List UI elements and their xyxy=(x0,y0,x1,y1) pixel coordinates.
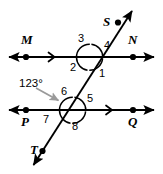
angle-label-6: 6 xyxy=(61,86,67,97)
point-m-dot xyxy=(23,54,29,60)
point-s-dot xyxy=(115,19,121,25)
point-label-n: N xyxy=(128,33,137,46)
point-n-dot xyxy=(130,54,136,60)
arc-angle-4 xyxy=(91,44,102,57)
angle-label-7: 7 xyxy=(43,114,49,125)
angle-label-8: 8 xyxy=(72,121,78,132)
geometry-figure: M N P Q S T 3 4 2 1 6 5 7 8 123° xyxy=(0,0,163,174)
angle-label-4: 4 xyxy=(104,40,110,51)
angle-label-1: 1 xyxy=(99,68,105,79)
angle-label-3: 3 xyxy=(78,33,84,44)
point-label-m: M xyxy=(21,33,33,46)
point-q-dot xyxy=(130,107,136,113)
arc-angle-2 xyxy=(77,58,88,71)
point-label-s: S xyxy=(103,15,110,28)
point-p-dot xyxy=(23,107,29,113)
angle-label-2: 2 xyxy=(70,62,76,73)
annotation-pointer-arrow xyxy=(36,88,59,101)
line-mn xyxy=(9,53,154,62)
point-label-p: P xyxy=(21,115,29,128)
angle-measure-label: 123° xyxy=(19,78,43,90)
arc-angle-3 xyxy=(76,44,89,57)
angle-label-5: 5 xyxy=(87,93,93,104)
point-label-t: T xyxy=(30,143,38,156)
point-label-q: Q xyxy=(128,115,137,128)
arc-angle-6 xyxy=(59,97,72,110)
point-t-dot xyxy=(39,148,45,154)
